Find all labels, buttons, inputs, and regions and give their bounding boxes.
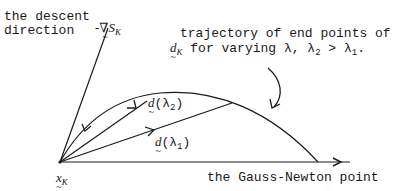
trajectory-period: . xyxy=(357,41,365,56)
descent-label-line2: direction xyxy=(4,24,90,38)
d-lambda2-d: d xyxy=(148,96,155,110)
gauss-newton-label: the Gauss-Newton point xyxy=(207,171,379,185)
d-lambda1-vector xyxy=(60,103,232,162)
origin-x: x xyxy=(56,171,62,185)
d-lambda1-label: d(λ1) xyxy=(155,135,190,154)
trajectory-varying-text: for varying λ, λ xyxy=(183,41,316,56)
d-lambda2-arrowhead-icon xyxy=(127,100,136,108)
d-lambda2-close: ) xyxy=(176,96,184,111)
d-lambda2-label: d(λ2) xyxy=(148,96,183,115)
origin-point xyxy=(58,160,61,163)
gradient-label: -∇SK xyxy=(95,21,121,39)
gradient-subscript: K xyxy=(115,27,121,37)
d-lambda1-paren: (λ xyxy=(162,135,178,150)
origin-subscript: K xyxy=(62,177,68,187)
d-lambda1-d: d xyxy=(155,135,162,149)
d-lambda2-vector xyxy=(60,101,147,162)
gradient-direction-line xyxy=(60,28,108,162)
descent-direction-label: the descent direction xyxy=(4,10,90,38)
trajectory-d: d xyxy=(170,41,177,55)
trajectory-line2: dK for varying λ, λ2 > λ1. xyxy=(170,41,391,60)
d-lambda2-paren: (λ xyxy=(155,96,171,111)
descent-label-line1: the descent xyxy=(4,10,90,24)
d-lambda1-close: ) xyxy=(183,135,191,150)
origin-label: xK xyxy=(56,171,68,189)
trajectory-line1: trajectory of end points of xyxy=(180,27,391,41)
gradient-symbol: -∇S xyxy=(95,21,115,35)
trajectory-gt: > λ xyxy=(321,41,352,56)
trajectory-label: trajectory of end points of dK for varyi… xyxy=(180,27,391,60)
